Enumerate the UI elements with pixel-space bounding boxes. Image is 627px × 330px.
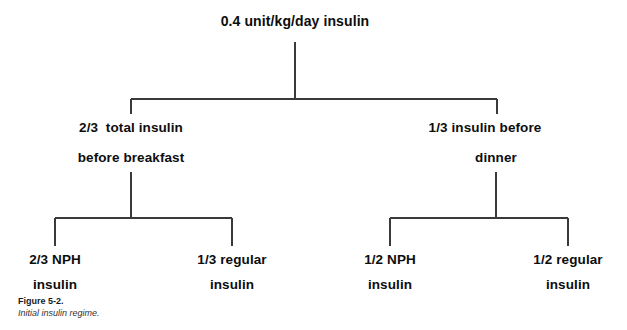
node-leaf-regular-one-third-line1: 1/3 regular [197, 253, 266, 267]
node-leaf-nph-half-line1: 1/2 NPH [364, 253, 416, 267]
node-leaf-nph-two-thirds-line1: 2/3 NPH [29, 253, 81, 267]
node-level2-left-line2: before breakfast [78, 151, 185, 165]
node-leaf-regular-one-third-line2: insulin [210, 278, 254, 292]
node-leaf-regular-half-line2: insulin [546, 278, 590, 292]
node-leaf-nph-two-thirds-line2: insulin [33, 278, 77, 292]
node-leaf-regular-half-line1: 1/2 regular [533, 253, 602, 267]
figure-diagram: 0.4 unit/kg/day insulin 2/3 total insuli… [0, 0, 627, 330]
tree-connector-lines [0, 0, 627, 330]
node-level2-left-line1: 2/3 total insulin [79, 121, 183, 135]
node-level2-right-line1: 1/3 insulin before [429, 121, 542, 135]
node-leaf-nph-half-line2: insulin [368, 278, 412, 292]
figure-caption-label: Figure 5-2. [18, 296, 64, 307]
figure-caption-text: Initial insulin regime. [18, 308, 100, 319]
node-level2-right-line2: dinner [475, 151, 517, 165]
node-root-dose: 0.4 unit/kg/day insulin [221, 14, 370, 28]
